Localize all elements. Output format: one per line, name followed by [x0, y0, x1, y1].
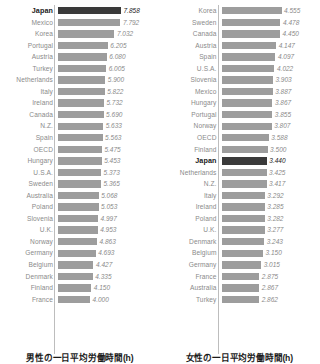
category-label: Korea — [1, 28, 57, 40]
bar-row: Austria6.080 — [1, 51, 159, 63]
bar — [58, 30, 114, 37]
value-label: 5.475 — [102, 144, 121, 156]
bar-rows-male: Japan7.858Mexico7.792Korea7.032Portugal6… — [1, 2, 159, 305]
bar — [58, 76, 105, 83]
value-label: 5.690 — [104, 109, 123, 121]
category-label: Denmark — [1, 271, 57, 283]
category-label: Sweden — [1, 178, 57, 190]
category-label: Italy — [161, 190, 221, 202]
bar-zone: 4.147 — [221, 40, 319, 52]
bar-zone: 4.000 — [57, 294, 159, 306]
bar-row: Turkey6.005 — [1, 63, 159, 75]
bar — [58, 7, 121, 14]
category-label: Germany — [1, 247, 57, 259]
value-label: 6.080 — [107, 51, 126, 63]
bar — [222, 296, 260, 303]
value-label: 4.997 — [98, 213, 117, 225]
bar — [222, 65, 275, 72]
value-label: 5.732 — [104, 97, 123, 109]
bar — [58, 226, 98, 233]
category-label: OECD — [161, 132, 221, 144]
bar — [58, 215, 98, 222]
value-label: 3.277 — [265, 224, 284, 236]
bar — [222, 146, 268, 153]
category-label: Poland — [1, 201, 57, 213]
value-label: 5.068 — [99, 190, 118, 202]
bar-zone: 4.693 — [57, 247, 159, 259]
bar-row: Finland3.500 — [161, 144, 319, 156]
bar-row: Japan3.440 — [161, 155, 319, 167]
bar — [58, 169, 101, 176]
bar — [222, 76, 273, 83]
bar-zone: 5.822 — [57, 86, 159, 98]
bar — [222, 250, 263, 257]
bar-zone: 3.150 — [221, 247, 319, 259]
value-label: 3.440 — [267, 155, 286, 167]
category-label: France — [1, 294, 57, 306]
value-label: 4.478 — [280, 17, 299, 29]
value-label: 3.282 — [265, 213, 284, 225]
bar-row: Poland3.282 — [161, 213, 319, 225]
bar — [58, 273, 93, 280]
bar — [222, 88, 273, 95]
bar-zone: 5.068 — [57, 190, 159, 202]
chart-panel-female: Korea4.555Sweden4.478Canada4.450Austria4… — [160, 0, 320, 364]
category-label: Norway — [1, 236, 57, 248]
bar-zone: 4.953 — [57, 224, 159, 236]
bar — [58, 238, 97, 245]
bar-zone: 3.292 — [221, 190, 319, 202]
bar-row: U.K.4.953 — [1, 224, 159, 236]
bar-row: Sweden5.365 — [1, 178, 159, 190]
bar-row: Denmark3.243 — [161, 236, 319, 248]
bar-zone: 2.862 — [221, 294, 319, 306]
bar-zone: 4.450 — [221, 28, 319, 40]
bar-zone: 3.807 — [221, 120, 319, 132]
bar-zone: 5.690 — [57, 109, 159, 121]
bar-row: OECD3.588 — [161, 132, 319, 144]
value-label: 6.205 — [108, 40, 127, 52]
bar-zone: 5.373 — [57, 167, 159, 179]
bar — [58, 123, 103, 130]
bar-row: Denmark4.335 — [1, 271, 159, 283]
bar-zone: 4.427 — [57, 259, 159, 271]
category-label: U.S.A. — [1, 167, 57, 179]
category-label: Mexico — [161, 86, 221, 98]
value-label: 5.373 — [101, 167, 120, 179]
category-label: Netherlands — [161, 167, 221, 179]
bar-zone: 5.053 — [57, 201, 159, 213]
value-label: 4.953 — [98, 224, 117, 236]
bar-zone: 3.015 — [221, 259, 319, 271]
bar-row: Poland5.053 — [1, 201, 159, 213]
value-label: 3.425 — [267, 167, 286, 179]
bar-row: Canada4.450 — [161, 28, 319, 40]
category-label: Germany — [161, 259, 221, 271]
chart-panel-male: Japan7.858Mexico7.792Korea7.032Portugal6… — [0, 0, 160, 364]
bar-row: Netherlands3.425 — [161, 167, 319, 179]
bar — [222, 19, 281, 26]
bar — [58, 88, 105, 95]
bar — [222, 169, 267, 176]
value-label: 5.822 — [105, 86, 124, 98]
bar — [222, 180, 267, 187]
bar-row: Hungary3.867 — [161, 97, 319, 109]
value-label: 5.453 — [102, 155, 121, 167]
bar-row: Australia2.867 — [161, 282, 319, 294]
category-label: Hungary — [161, 97, 221, 109]
bar-zone: 2.875 — [221, 271, 319, 283]
bar — [58, 157, 102, 164]
bar — [222, 284, 260, 291]
bar-row: Spain4.097 — [161, 51, 319, 63]
bar — [222, 7, 282, 14]
bar-row: France4.000 — [1, 294, 159, 306]
bar-row: Turkey2.862 — [161, 294, 319, 306]
bar-row: Slovenia3.903 — [161, 74, 319, 86]
category-label: U.K. — [161, 224, 221, 236]
bar-zone: 5.475 — [57, 144, 159, 156]
bar — [222, 273, 260, 280]
category-label: Canada — [1, 109, 57, 121]
bar-row: U.K.3.277 — [161, 224, 319, 236]
bar — [58, 99, 104, 106]
bar — [58, 261, 93, 268]
bar — [222, 42, 277, 49]
bar — [222, 238, 265, 245]
